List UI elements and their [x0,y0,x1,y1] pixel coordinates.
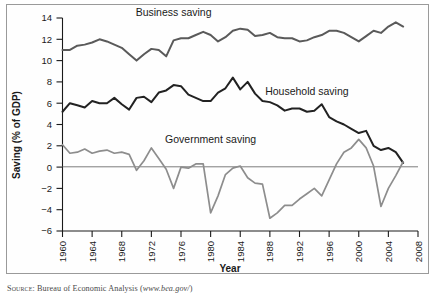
series-label-household-saving: Household saving [265,85,349,97]
figure-container: Saving (% of GDP) Year −6−4−202468101214… [0,0,436,298]
y-tick-label: 10 [41,55,52,66]
y-tick-label: 6 [47,98,52,109]
x-tick-label: 1992 [294,241,305,262]
x-tick-label: 1964 [87,241,98,262]
y-tick-label: 0 [47,162,52,173]
source-prefix-label: Source: [7,284,35,293]
series-lines [63,22,404,218]
source-body-text: Bureau of Economic Analysis ( [37,284,143,293]
x-tick-label: 2008 [413,241,424,262]
x-tick-label: 1980 [205,241,216,262]
x-tick-label: 1984 [235,241,246,262]
y-tick-label: 2 [47,140,52,151]
x-tick-label: 1968 [116,241,127,262]
series-line-household-saving [63,78,404,163]
y-tick-label: 4 [47,119,52,130]
series-line-government-saving [63,139,404,218]
chart-plot-area: Saving (% of GDP) Year −6−4−202468101214… [0,0,436,280]
y-axis-ticks: −6−4−202468101214 [41,12,62,236]
x-tick-label: 2004 [383,241,394,262]
x-axis-ticks: 1960196419681972197619801984198819921996… [57,231,424,262]
x-axis-title: Year [219,263,240,274]
x-tick-label: 1988 [264,241,275,262]
x-tick-label: 1972 [146,241,157,262]
x-tick-label: 2000 [353,241,364,262]
x-tick-label: 1960 [57,241,68,262]
y-axis-title: Saving (% of GDP) [11,91,22,179]
x-tick-label: 1976 [176,241,187,262]
source-suffix-text: ) [190,284,193,293]
y-tick-label: −4 [41,204,52,215]
line-chart-svg: Saving (% of GDP) Year −6−4−202468101214… [0,0,436,280]
series-line-business-saving [63,22,404,60]
y-tick-label: 14 [41,12,52,23]
y-tick-label: 12 [41,34,52,45]
y-tick-label: −2 [41,183,52,194]
y-tick-label: 8 [47,76,52,87]
series-inline-labels: Business savingHousehold savingGovernmen… [136,6,349,145]
series-label-business-saving: Business saving [136,6,212,18]
y-tick-label: −6 [41,225,52,236]
x-tick-label: 1996 [324,241,335,262]
series-label-government-saving: Government saving [165,133,256,145]
source-note: Source: Bureau of Economic Analysis (www… [7,284,193,293]
source-url-text: www.bea.gov/ [143,284,190,293]
